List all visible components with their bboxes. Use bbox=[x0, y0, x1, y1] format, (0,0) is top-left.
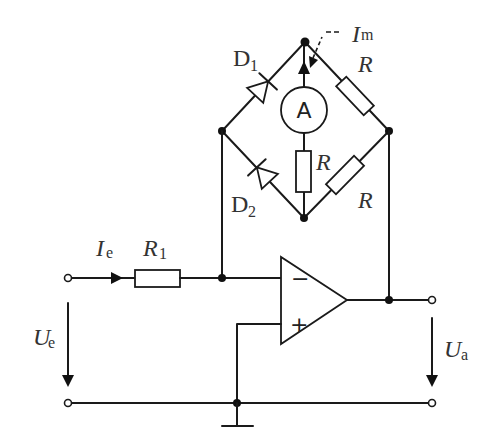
opamp-plus: + bbox=[290, 312, 308, 337]
opamp: − + bbox=[281, 257, 347, 344]
terminal-output bbox=[429, 297, 436, 304]
label-d1-sub: 1 bbox=[250, 57, 258, 74]
terminal-input-bottom bbox=[65, 400, 72, 407]
ue-arrow-icon bbox=[62, 375, 74, 387]
label-ua: U a bbox=[444, 336, 468, 363]
resistor-body bbox=[336, 77, 374, 116]
opamp-minus: − bbox=[291, 266, 309, 291]
label-r-center: R bbox=[315, 149, 331, 175]
label-ie: I e bbox=[95, 235, 113, 261]
label-d1: D 1 bbox=[233, 45, 258, 74]
label-d2-sub: 2 bbox=[248, 203, 256, 220]
label-r1-main: R bbox=[142, 235, 158, 261]
label-ue: U e bbox=[33, 324, 55, 351]
label-r-bottom-right: R bbox=[357, 187, 373, 213]
current-arrow-up-icon bbox=[298, 61, 310, 74]
circuit-diagram: A − + D 1 bbox=[0, 0, 492, 447]
wire-noninverting bbox=[237, 324, 281, 403]
label-d2-main: D bbox=[231, 191, 248, 217]
resistor-r-top-right bbox=[336, 77, 374, 116]
label-d1-main: D bbox=[233, 45, 250, 71]
label-r1: R 1 bbox=[142, 235, 167, 262]
label-ua-sub: a bbox=[461, 346, 468, 363]
ie-arrow-icon bbox=[111, 272, 123, 284]
terminal-input-top bbox=[65, 275, 72, 282]
ammeter: A bbox=[281, 87, 327, 133]
label-im: I m bbox=[351, 21, 374, 47]
label-r-top-right: R bbox=[357, 51, 373, 77]
node-output bbox=[385, 296, 393, 304]
resistor-r-center bbox=[296, 151, 311, 192]
ua-arrow-icon bbox=[426, 375, 438, 387]
resistor-r1 bbox=[135, 270, 180, 287]
node-top bbox=[301, 38, 310, 47]
label-r1-sub: 1 bbox=[159, 245, 167, 262]
node-inverting-input bbox=[218, 274, 226, 282]
label-ie-sub: e bbox=[106, 244, 113, 261]
terminal-output-bottom bbox=[429, 400, 436, 407]
ammeter-label: A bbox=[296, 98, 311, 123]
label-im-main: I bbox=[351, 21, 361, 47]
label-d2: D 2 bbox=[231, 191, 256, 220]
node-bottom bbox=[300, 214, 308, 222]
label-ue-sub: e bbox=[48, 334, 55, 351]
label-ie-main: I bbox=[95, 235, 105, 261]
label-im-sub: m bbox=[361, 26, 374, 43]
